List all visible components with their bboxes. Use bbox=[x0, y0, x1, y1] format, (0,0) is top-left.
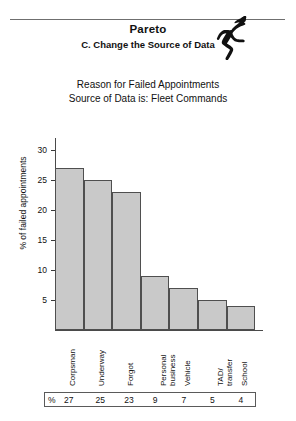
x-category-label: TAD/ transfer bbox=[217, 359, 234, 386]
bar bbox=[112, 192, 141, 330]
value-cell: 9 bbox=[153, 395, 173, 405]
value-cell: 4 bbox=[239, 395, 259, 405]
value-cell: 25 bbox=[96, 395, 116, 405]
bar bbox=[198, 300, 227, 330]
pareto-bar-chart: % of failed appointments 51015202530 Cor… bbox=[0, 0, 296, 421]
x-category-label: Corpsman bbox=[69, 349, 78, 386]
value-cell: 7 bbox=[181, 395, 201, 405]
y-tick-label: 20 bbox=[27, 206, 47, 214]
bar bbox=[141, 276, 170, 330]
value-cell: 23 bbox=[124, 395, 144, 405]
y-tick-label: 15 bbox=[27, 236, 47, 244]
bar bbox=[84, 180, 113, 330]
bar bbox=[169, 288, 198, 330]
value-unit-symbol: % bbox=[48, 395, 56, 405]
value-strip: %2725239754 bbox=[44, 392, 256, 407]
bar bbox=[227, 306, 256, 330]
y-tick-label: 10 bbox=[27, 266, 47, 274]
x-category-label: School bbox=[241, 362, 250, 386]
x-category-label: Personal business bbox=[160, 354, 177, 386]
y-tick-mark bbox=[51, 150, 55, 151]
bar bbox=[55, 168, 84, 330]
x-category-label: Underway bbox=[98, 350, 107, 386]
x-category-label: Vehicle bbox=[184, 360, 193, 386]
y-tick-label: 25 bbox=[27, 176, 47, 184]
x-category-label: Forgot bbox=[127, 363, 136, 386]
y-tick-label: 5 bbox=[27, 296, 47, 304]
value-cell: 27 bbox=[64, 395, 84, 405]
x-axis-line bbox=[55, 330, 263, 331]
value-cell: 5 bbox=[210, 395, 230, 405]
y-axis-title: % of failed appointments bbox=[18, 138, 28, 268]
y-tick-label: 30 bbox=[27, 146, 47, 154]
